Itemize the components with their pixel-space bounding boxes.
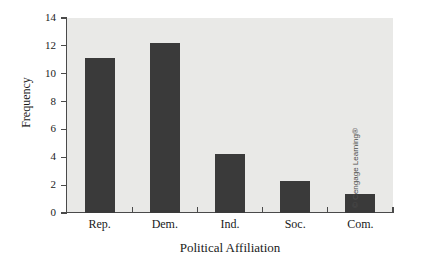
copyright-notice: © Cengage Learning®	[351, 88, 360, 208]
chart-figure: 02468101214 Rep.Dem.Ind.Soc.Com. Frequen…	[0, 0, 430, 270]
y-axis-tick-label: 12	[16, 40, 56, 51]
y-axis-tick	[61, 129, 67, 130]
bar	[345, 194, 375, 213]
y-axis-tick	[61, 73, 67, 74]
y-axis-tick	[61, 212, 67, 213]
x-axis-tick	[132, 207, 133, 213]
y-axis-tick	[61, 101, 67, 102]
x-axis-tick-label: Soc.	[260, 217, 330, 231]
x-axis-tick	[262, 207, 263, 213]
y-axis-tick	[61, 185, 67, 186]
y-axis-tick	[61, 157, 67, 158]
bar	[85, 58, 115, 213]
y-axis-tick-label: 14	[16, 12, 56, 23]
y-axis-tick	[61, 45, 67, 46]
y-axis-tick-label: 2	[16, 179, 56, 190]
x-axis-tick-label: Dem.	[130, 217, 200, 231]
x-axis-tick	[392, 207, 393, 213]
bar	[150, 43, 180, 213]
x-axis-tick-label: Rep.	[65, 217, 135, 231]
x-axis-tick-label: Com.	[325, 217, 395, 231]
y-axis-title: Frequency	[20, 63, 33, 143]
y-axis-tick-label: 0	[16, 207, 56, 218]
bar	[280, 181, 310, 213]
y-axis-tick-label: 4	[16, 151, 56, 162]
y-axis-tick	[61, 17, 67, 18]
x-axis-tick	[197, 207, 198, 213]
bar	[215, 154, 245, 213]
x-axis-tick	[327, 207, 328, 213]
x-axis-tick-label: Ind.	[195, 217, 265, 231]
x-axis-title: Political Affiliation	[67, 240, 393, 255]
